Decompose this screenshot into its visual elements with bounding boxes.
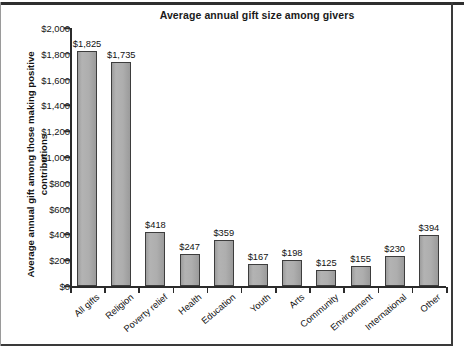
chart-page: Average annual gift size among givers Av… [0, 0, 464, 356]
bar[interactable] [316, 270, 336, 286]
x-axis-tick-mark [446, 287, 448, 293]
chart-title: Average annual gift size among givers [72, 9, 442, 21]
page-border-left [0, 2, 1, 346]
bar-value-label: $125 [316, 258, 337, 268]
bar-value-label: $359 [213, 228, 234, 238]
bar-slot: $418 [138, 28, 172, 286]
bar[interactable] [214, 240, 234, 286]
x-axis-tick-mark [241, 287, 243, 293]
plot-area: $1,825$1,735$418$247$359$167$198$125$155… [70, 28, 446, 286]
bar-slot: $394 [412, 28, 446, 286]
x-axis-tick-mark [343, 287, 345, 293]
x-axis-line [70, 286, 446, 288]
x-axis-tick-mark [378, 287, 380, 293]
page-border-right [451, 2, 453, 346]
bar-slot: $155 [343, 28, 377, 286]
bar[interactable] [351, 266, 371, 286]
x-axis-tick-mark [104, 287, 106, 293]
bar-slot: $1,735 [104, 28, 138, 286]
bar[interactable] [145, 232, 165, 286]
bar[interactable] [385, 256, 405, 286]
page-border-top [0, 2, 464, 5]
x-axis-tick-mark [70, 287, 72, 293]
x-axis-tick-mark [412, 287, 414, 293]
x-axis-category-label: Arts [287, 292, 306, 310]
x-axis-tick-mark [173, 287, 175, 293]
bar-value-label: $1,735 [107, 50, 135, 60]
bar-slot: $167 [241, 28, 275, 286]
x-axis-tick-mark [207, 287, 209, 293]
bar-slot: $247 [173, 28, 207, 286]
page-border-bottom [0, 344, 453, 346]
x-axis-category-label: Health [177, 292, 204, 317]
bar-slot: $359 [207, 28, 241, 286]
bar[interactable] [282, 260, 302, 286]
bar-value-label: $155 [350, 254, 371, 264]
bar-value-label: $198 [282, 248, 303, 258]
bar-value-label: $1,825 [73, 39, 101, 49]
bar-value-label: $418 [145, 220, 166, 230]
bar-value-label: $247 [179, 242, 200, 252]
bar-value-label: $167 [248, 252, 269, 262]
bar-slot: $125 [309, 28, 343, 286]
bar-value-label: $394 [419, 223, 440, 233]
x-axis-category-label: All gifts [72, 292, 101, 319]
bar-value-label: $230 [384, 244, 405, 254]
bar[interactable] [77, 51, 97, 286]
x-axis-category-label: Religion [103, 292, 135, 321]
x-axis-tick-mark [309, 287, 311, 293]
bar[interactable] [419, 235, 439, 286]
bar-slot: $1,825 [70, 28, 104, 286]
bar[interactable] [180, 254, 200, 286]
x-axis-tick-mark [275, 287, 277, 293]
bar[interactable] [111, 62, 131, 286]
x-axis-category-label: Other [419, 292, 443, 314]
x-axis-category-label: Education [200, 292, 238, 326]
x-axis-category-label: Youth [248, 292, 272, 315]
bar-slot: $198 [275, 28, 309, 286]
bar-slot: $230 [378, 28, 412, 286]
bar[interactable] [248, 264, 268, 286]
x-axis-tick-mark [138, 287, 140, 293]
